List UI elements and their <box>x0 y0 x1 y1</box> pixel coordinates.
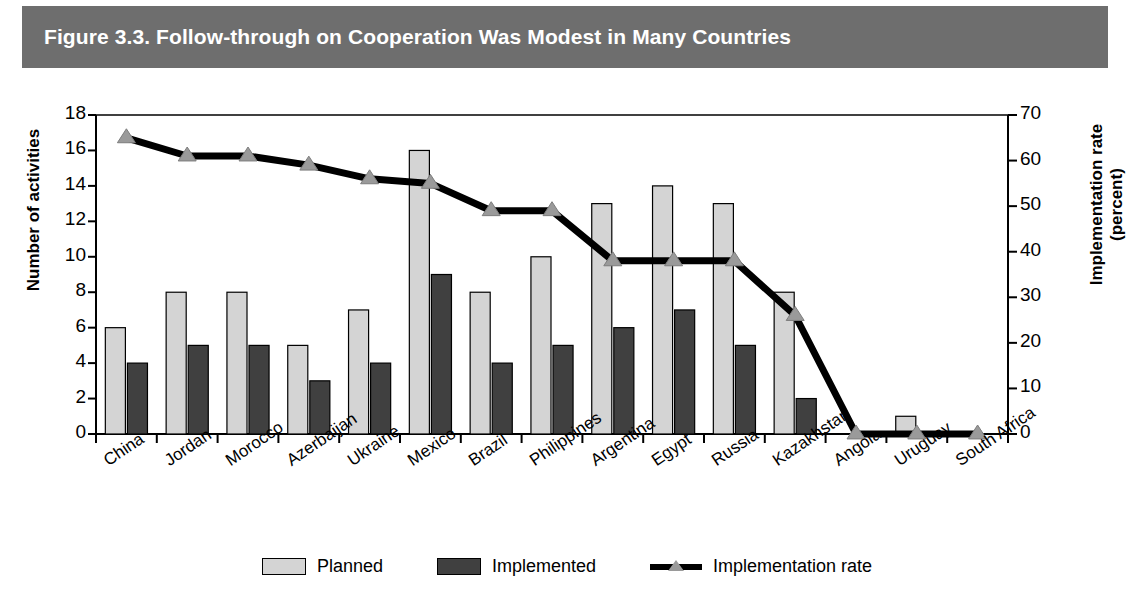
x-axis-tick-labels: ChinaJordanMoroccoAzerbaijanUkraineMexic… <box>0 0 1134 613</box>
x-axis-label-jordan: Jordan <box>161 425 215 471</box>
legend-label-implementation-rate: Implementation rate <box>713 556 872 577</box>
x-axis-label-russia: Russia <box>708 425 762 471</box>
x-axis-label-egypt: Egypt <box>648 430 695 471</box>
legend-item-implementation-rate[interactable]: Implementation rate <box>650 556 872 577</box>
triangle-marker-icon <box>668 560 684 571</box>
figure-chart: Figure 3.3. Follow-through on Cooperatio… <box>0 0 1134 613</box>
x-axis-label-uruguay: Uruguay <box>891 418 955 471</box>
legend-label-implemented: Implemented <box>492 556 596 577</box>
legend-swatch-implemented <box>437 558 481 575</box>
legend-item-implemented[interactable]: Implemented <box>437 556 596 577</box>
x-axis-label-south-africa: South Africa <box>952 403 1039 471</box>
legend-label-planned: Planned <box>317 556 383 577</box>
legend-swatch-planned <box>262 558 306 575</box>
x-axis-label-china: China <box>100 429 148 470</box>
legend-item-planned[interactable]: Planned <box>262 556 383 577</box>
chart-legend: Planned Implemented Implementation rate <box>0 556 1134 577</box>
x-axis-label-morocco: Morocco <box>222 418 287 471</box>
legend-swatch-implementation-rate <box>650 559 702 574</box>
x-axis-label-mexico: Mexico <box>404 424 460 471</box>
x-axis-label-brazil: Brazil <box>465 430 511 470</box>
